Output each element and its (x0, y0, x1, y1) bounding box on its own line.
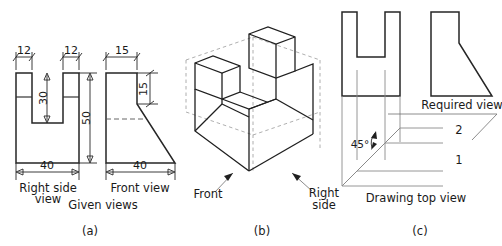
isometric-construction-lines (186, 37, 320, 171)
dimension-15-vertical: 15 (137, 82, 150, 96)
line-label-1: 1 (455, 153, 462, 167)
isometric-leaders (215, 173, 312, 192)
panel-c-side-view-outline (342, 12, 400, 96)
projection-lines-vertical (342, 70, 400, 186)
right-side-view-dimensions: 12 12 30 50 (13, 44, 97, 180)
isometric-right-side-label-line2: side (312, 198, 336, 212)
right-side-view-label-line2: view (35, 192, 61, 206)
dimension-12-right: 12 (64, 44, 78, 57)
angle-arrow-upper (371, 131, 377, 139)
dimension-30: 30 (37, 91, 50, 105)
panel-a-given-views: 12 12 30 50 (13, 44, 175, 238)
figure-canvas: 12 12 30 50 (0, 0, 502, 246)
isometric-left-prong (195, 56, 240, 99)
given-views-label: Given views (68, 198, 137, 212)
drawing-top-view-label: Drawing top view (366, 191, 466, 205)
dimension-12-left: 12 (17, 44, 31, 57)
line-label-2: 2 (455, 123, 462, 137)
front-view-label: Front view (110, 181, 169, 195)
dimension-50: 50 (80, 111, 93, 125)
dimension-15-top: 15 (115, 44, 129, 57)
isometric-body (195, 64, 313, 171)
required-view-outline (431, 12, 492, 96)
front-view-dimensions: 15 15 40 (103, 44, 175, 180)
caption-c: (c) (412, 224, 427, 238)
caption-b: (b) (254, 224, 270, 238)
panel-c-drawing-top-view: 45° Required view 2 1 Drawing top view (… (342, 12, 502, 238)
angle-45-label: 45° (351, 138, 370, 150)
panel-b-isometric: Front Right side (b) (186, 27, 340, 238)
isometric-right-prong (249, 27, 295, 78)
miter-line-45 (342, 128, 400, 186)
dimension-40-front: 40 (133, 159, 147, 172)
right-side-view-outline (16, 73, 79, 163)
angle-45-indicator (371, 131, 377, 150)
engineering-drawing-figure: 12 12 30 50 (0, 0, 502, 246)
required-view-label: Required view (421, 98, 502, 112)
isometric-front-label: Front (193, 187, 223, 201)
caption-a: (a) (82, 224, 98, 238)
required-view-leader (388, 114, 497, 140)
front-leader-arrowhead (224, 173, 233, 181)
dimension-40-side: 40 (40, 159, 54, 172)
